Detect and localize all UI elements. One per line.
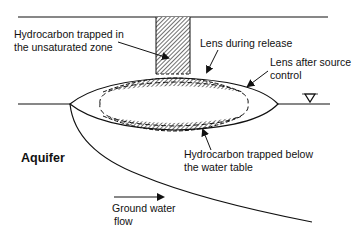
diagram-canvas: Hydrocarbon trapped in the unsaturated z… — [0, 0, 360, 236]
arrow-lens-release — [207, 50, 218, 72]
label-lens-after-control: Lens after source control — [270, 56, 351, 81]
unsaturated-zone-hydrocarbon — [156, 17, 190, 74]
label-unsaturated-zone: Hydrocarbon trapped in the unsaturated z… — [14, 28, 124, 53]
label-lens-during-release: Lens during release — [200, 37, 292, 50]
label-groundwater-flow: Ground water flow — [112, 202, 176, 227]
arrow-lens-after — [248, 71, 268, 86]
label-below-water-table: Hydrocarbon trapped below the water tabl… — [184, 148, 313, 173]
arrow-below-table — [203, 130, 211, 150]
water-table-triangle-icon — [305, 94, 315, 102]
label-aquifer: Aquifer — [21, 152, 65, 165]
